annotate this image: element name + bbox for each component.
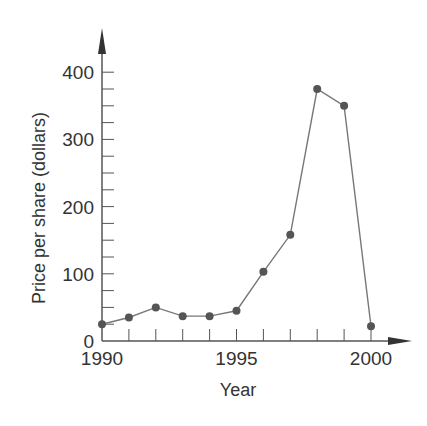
x-tick-label: 2000	[350, 348, 392, 369]
x-tick-label: 1995	[215, 348, 257, 369]
data-point-marker	[340, 102, 348, 110]
x-axis-title: Year	[220, 380, 256, 400]
data-point-marker	[367, 322, 375, 330]
data-point-marker	[179, 312, 187, 320]
y-tick-label: 100	[62, 264, 94, 285]
data-series	[98, 85, 375, 330]
data-point-marker	[313, 85, 321, 93]
y-tick-label: 400	[62, 62, 94, 83]
y-axis-title: Price per share (dollars)	[29, 112, 49, 304]
line-chart: 0100200300400199019952000 Year Price per…	[0, 0, 427, 426]
data-point-marker	[259, 268, 267, 276]
y-tick-label: 300	[62, 129, 94, 150]
ticks	[102, 72, 371, 341]
x-axis-arrow-icon	[388, 337, 412, 345]
data-point-marker	[125, 313, 133, 321]
data-point-marker	[233, 307, 241, 315]
data-point-marker	[152, 303, 160, 311]
axes	[98, 28, 412, 345]
data-point-marker	[286, 231, 294, 239]
y-axis-arrow-icon	[98, 28, 106, 54]
data-point-marker	[98, 320, 106, 328]
series-line	[102, 89, 371, 326]
y-tick-label: 200	[62, 197, 94, 218]
x-tick-label: 1990	[81, 348, 123, 369]
data-point-marker	[206, 312, 214, 320]
